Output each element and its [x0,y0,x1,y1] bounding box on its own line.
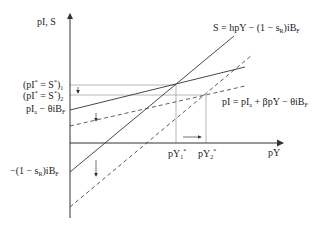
investment-line-solid [70,67,245,110]
py2-label: pY2* [198,148,216,160]
eq2-label: (pI* = S*)2 [23,90,63,102]
x-axis-label: pY [268,148,280,158]
investment-curve-label: pI = pIa + βpY − θiBF [222,97,308,108]
investment-intercept-label: pIa − θiBF [26,104,65,115]
py1-label: pY1* [168,148,186,160]
saving-intercept-label: −(1 − sR)iBF [10,166,59,177]
saving-curve-label: S = hpY − (1 − sR)iBF [213,23,300,34]
y-axis-label: pI, S [37,17,56,27]
saving-line-dashed [70,55,252,207]
